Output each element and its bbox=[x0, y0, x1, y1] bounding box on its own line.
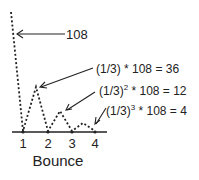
annotation-bounce-1: (1/3) * 108 = 36 bbox=[96, 62, 179, 76]
annotation-arrows bbox=[17, 30, 106, 124]
tick-label-1: 1 bbox=[19, 136, 26, 151]
tick-label-2: 2 bbox=[44, 136, 51, 151]
tick-label-3: 3 bbox=[68, 136, 75, 151]
diagram-canvas: 108 (1/3) * 108 = 36 (1/3)2 * 108 = 12 (… bbox=[0, 0, 199, 180]
annotation-bounce-3: (1/3)3 * 108 = 4 bbox=[106, 103, 187, 118]
bounce-diagram: 108 (1/3) * 108 = 36 (1/3)2 * 108 = 12 (… bbox=[0, 0, 199, 180]
tick-label-4: 4 bbox=[91, 136, 98, 151]
annotation-bounce-2: (1/3)2 * 108 = 12 bbox=[99, 83, 187, 98]
initial-height-label: 108 bbox=[66, 27, 88, 42]
x-axis-title: Bounce bbox=[33, 152, 84, 169]
